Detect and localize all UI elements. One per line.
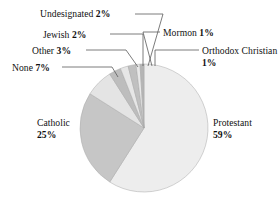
pie-label-catholic: Catholic 25% [37,117,85,140]
pie-label-jewish-name: Jewish [43,29,69,40]
leader-line-orthodox [155,50,199,66]
pie-chart-figure: Undesignated 2% Jewish 2% Other 3% None … [0,0,278,203]
pie-label-undesignated-name: Undesignated [40,8,93,19]
leader-line-mormon [143,32,160,66]
pie-label-undesignated-value: 2% [96,8,111,19]
leader-line-other [86,50,138,67]
pie-label-other-value: 3% [57,45,72,56]
pie-chart-svg [0,0,278,203]
pie-slice-group [80,64,208,192]
pie-label-none-name: None [12,62,33,73]
pie-label-none-value: 7% [35,62,50,73]
pie-label-mormon-name: Mormon [163,27,197,38]
pie-label-mormon-value: 1% [199,27,214,38]
pie-label-other-name: Other [32,45,54,56]
pie-label-catholic-name: Catholic [37,117,70,128]
leader-line-undesignated [135,14,163,66]
pie-label-mormon: Mormon 1% [163,27,214,39]
pie-label-none: None 7% [12,62,50,74]
pie-label-jewish: Jewish 2% [43,29,86,41]
pie-label-orthodox-name: Orthodox Christian [202,45,277,56]
pie-label-protestant-name: Protestant [213,117,252,128]
pie-label-jewish-value: 2% [72,29,87,40]
pie-label-orthodox: Orthodox Christian 1% [202,45,278,68]
pie-label-orthodox-value: 1% [202,57,278,69]
pie-label-protestant-value: 59% [213,129,273,141]
pie-label-other: Other 3% [32,45,71,57]
pie-label-catholic-value: 25% [37,129,85,141]
pie-label-protestant: Protestant 59% [213,117,273,140]
pie-label-undesignated: Undesignated 2% [40,8,110,20]
